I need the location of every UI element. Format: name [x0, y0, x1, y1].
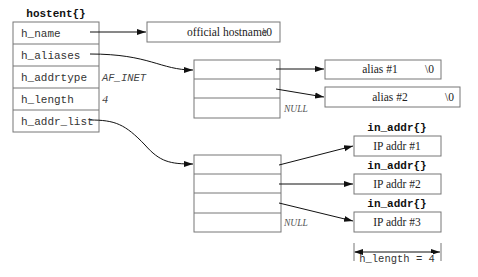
official-hostname-label: official hostname [187, 26, 267, 38]
field-h-length: h_length [21, 94, 74, 106]
addr-null-label: NULL [283, 218, 308, 228]
field-h-aliases: h_aliases [21, 50, 80, 62]
in-addr-1: in_addr{} IP addr #1 [354, 122, 441, 156]
ip-addr-3-label: IP addr #3 [373, 216, 421, 228]
h-length-dimension: h_length = 4 [354, 243, 441, 265]
alias-2-arrow [276, 89, 324, 97]
hostent-diagram: hostent{} h_name h_aliases h_addrtype h_… [0, 0, 478, 277]
in-addr-2: in_addr{} IP addr #2 [354, 160, 441, 194]
hostent-title: hostent{} [26, 8, 85, 20]
h-addr-list-arrow [90, 120, 193, 164]
hostent-struct: hostent{} h_name h_aliases h_addrtype h_… [13, 8, 147, 132]
official-hostname-terminator: \0 [263, 26, 272, 38]
aliases-null-label: NULL [283, 104, 308, 114]
in-addr-3: in_addr{} IP addr #3 [354, 198, 441, 232]
addr-1-arrow [279, 146, 353, 165]
alias-1-terminator: \0 [425, 63, 434, 75]
addr-list-array: NULL [194, 155, 308, 232]
h-length-dimension-label: h_length = 4 [359, 253, 435, 265]
alias-1-label: alias #1 [362, 63, 398, 75]
field-h-name: h_name [21, 28, 61, 40]
in-addr-2-title: in_addr{} [367, 160, 426, 172]
official-hostname-box: official hostname \0 [147, 22, 280, 42]
field-h-addrtype: h_addrtype [21, 72, 87, 84]
in-addr-1-title: in_addr{} [367, 122, 426, 134]
alias-2-label: alias #2 [372, 91, 408, 103]
in-addr-3-title: in_addr{} [367, 198, 426, 210]
alias-2-terminator: \0 [445, 91, 454, 103]
ip-addr-2-label: IP addr #2 [373, 178, 421, 190]
h-length-value: 4 [102, 94, 108, 106]
h-aliases-arrow [90, 54, 193, 70]
alias-1-box: alias #1 \0 [325, 60, 441, 79]
ip-addr-1-label: IP addr #1 [373, 140, 421, 152]
alias-2-box: alias #2 \0 [325, 87, 460, 107]
field-h-addr-list: h_addr_list [21, 116, 94, 128]
h-addrtype-value: AF_INET [101, 72, 147, 84]
